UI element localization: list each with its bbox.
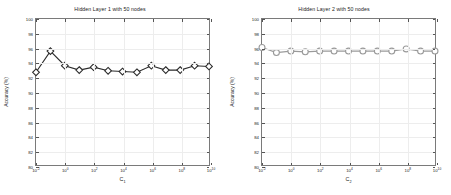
y-tick-mark <box>433 63 436 64</box>
gridline-horizontal <box>36 123 209 124</box>
x-tick-mark <box>36 163 37 166</box>
x-tick-label: 108 <box>405 168 412 173</box>
x-tick-mark <box>36 19 37 22</box>
y-tick-label: 86 <box>254 120 259 125</box>
y-tick-label: 88 <box>254 105 259 110</box>
y-tick-mark <box>36 123 39 124</box>
gridline-vertical <box>379 19 380 165</box>
y-tick-mark <box>36 152 39 153</box>
y-tick-mark <box>207 78 210 79</box>
y-tick-label: 88 <box>28 105 33 110</box>
x-tick-label: 106 <box>149 168 156 173</box>
x-tick-mark <box>153 19 154 22</box>
x-tick-mark <box>350 163 351 166</box>
y-tick-mark <box>36 63 39 64</box>
series-line-left <box>36 19 209 165</box>
y-tick-label: 100 <box>252 17 259 22</box>
y-tick-mark <box>262 34 265 35</box>
gridline-horizontal <box>262 34 435 35</box>
y-tick-mark <box>36 137 39 138</box>
x-tick-label: 1010 <box>207 168 215 173</box>
y-tick-label: 96 <box>28 46 33 51</box>
y-tick-mark <box>207 49 210 50</box>
y-tick-mark <box>262 93 265 94</box>
x-tick-mark <box>124 19 125 22</box>
y-tick-mark <box>207 19 210 20</box>
x-tick-mark <box>379 19 380 22</box>
gridline-vertical <box>320 19 321 165</box>
x-tick-label: 102 <box>91 168 98 173</box>
x-tick-mark <box>153 163 154 166</box>
data-marker-diamond <box>119 68 126 75</box>
x-tick-mark <box>94 163 95 166</box>
x-tick-mark <box>291 163 292 166</box>
y-tick-mark <box>262 63 265 64</box>
y-tick-mark <box>36 78 39 79</box>
gridline-horizontal <box>36 152 209 153</box>
data-marker-circle <box>302 49 308 55</box>
x-tick-mark <box>182 19 183 22</box>
y-tick-mark <box>207 34 210 35</box>
gridline-vertical <box>94 19 95 165</box>
chart-panel-right: Hidden Layer 2 with 50 nodes Accuracy (%… <box>226 0 451 195</box>
plot-area-left: 8082848688909294969810010-21001021041061… <box>35 18 210 166</box>
gridline-horizontal <box>36 49 209 50</box>
y-tick-mark <box>262 123 265 124</box>
chart-panel-left: Hidden Layer 1 with 50 nodes Accuracy (%… <box>0 0 225 195</box>
gridline-vertical <box>182 19 183 165</box>
gridline-vertical <box>153 19 154 165</box>
figure-canvas: Hidden Layer 1 with 50 nodes Accuracy (%… <box>0 0 451 195</box>
gridline-horizontal <box>262 63 435 64</box>
y-tick-label: 98 <box>254 31 259 36</box>
gridline-horizontal <box>262 93 435 94</box>
gridline-vertical <box>408 19 409 165</box>
y-tick-mark <box>36 49 39 50</box>
data-marker-diamond <box>76 67 83 74</box>
x-tick-label: 104 <box>346 168 353 173</box>
y-tick-label: 96 <box>254 46 259 51</box>
x-tick-mark <box>182 163 183 166</box>
y-tick-label: 94 <box>28 61 33 66</box>
gridline-horizontal <box>36 137 209 138</box>
y-tick-label: 92 <box>28 76 33 81</box>
gridline-horizontal <box>262 123 435 124</box>
y-tick-label: 84 <box>254 135 259 140</box>
gridline-horizontal <box>262 137 435 138</box>
x-tick-mark <box>211 19 212 22</box>
gridline-vertical <box>65 19 66 165</box>
x-tick-mark <box>124 163 125 166</box>
gridline-horizontal <box>262 78 435 79</box>
x-tick-label: 106 <box>375 168 382 173</box>
y-tick-mark <box>433 19 436 20</box>
x-tick-mark <box>94 19 95 22</box>
data-marker-diamond <box>105 67 112 74</box>
x-tick-mark <box>291 19 292 22</box>
y-tick-mark <box>262 108 265 109</box>
x-tick-mark <box>65 19 66 22</box>
x-tick-label: 10-2 <box>258 168 266 173</box>
x-tick-label: 104 <box>120 168 127 173</box>
y-tick-label: 100 <box>26 17 33 22</box>
y-tick-label: 86 <box>28 120 33 125</box>
y-tick-mark <box>433 49 436 50</box>
gridline-horizontal <box>262 108 435 109</box>
gridline-horizontal <box>36 108 209 109</box>
data-marker-diamond <box>33 69 40 76</box>
x-axis-label-left-sub: 1 <box>123 180 125 184</box>
y-tick-label: 90 <box>28 91 33 96</box>
y-tick-label: 98 <box>28 31 33 36</box>
gridline-vertical <box>350 19 351 165</box>
y-tick-mark <box>207 63 210 64</box>
x-axis-label-right-sub: 2 <box>349 180 351 184</box>
y-tick-mark <box>262 152 265 153</box>
x-tick-mark <box>437 19 438 22</box>
y-tick-mark <box>36 34 39 35</box>
gridline-vertical <box>124 19 125 165</box>
x-axis-label-right: C2 <box>261 176 436 182</box>
x-tick-label: 1010 <box>433 168 441 173</box>
x-tick-label: 100 <box>288 168 295 173</box>
x-axis-label-left: C1 <box>35 176 210 182</box>
x-tick-mark <box>320 163 321 166</box>
x-tick-mark <box>408 19 409 22</box>
y-axis-label-left: Accuracy (%) <box>3 77 9 107</box>
